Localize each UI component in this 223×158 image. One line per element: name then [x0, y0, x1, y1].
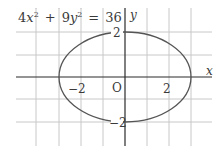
- tick-label-y-pos: 2: [113, 26, 121, 40]
- ellipse-diagram: 4x2+9y2=36 y x O 2 −2 2 −2: [0, 0, 223, 158]
- tick-label-x-pos: 2: [163, 82, 171, 96]
- origin-label: O: [112, 81, 122, 95]
- y-axis-label: y: [129, 8, 137, 22]
- tick-label-y-neg: −2: [109, 116, 127, 130]
- x-axis-label: x: [206, 64, 213, 78]
- tick-label-x-neg: −2: [68, 82, 86, 96]
- equation-label: 4x2+9y2=36: [18, 10, 122, 25]
